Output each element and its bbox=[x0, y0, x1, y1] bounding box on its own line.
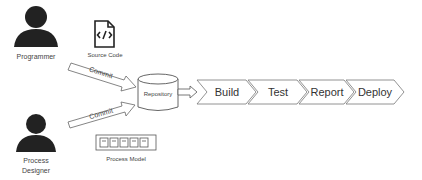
stage-deploy-label: Deploy bbox=[354, 86, 396, 98]
code-file-icon bbox=[95, 21, 114, 47]
programmer-person-icon bbox=[14, 6, 58, 47]
process-designer-person-icon bbox=[16, 114, 56, 152]
repository-to-build-arrow bbox=[178, 86, 197, 98]
stage-test-label: Test bbox=[258, 86, 298, 98]
stage-report-label: Report bbox=[307, 86, 347, 98]
source-code-label: Source Code bbox=[84, 52, 126, 58]
process-model-icon bbox=[96, 135, 156, 150]
process-designer-label-line2: Designer bbox=[14, 167, 58, 174]
process-model-label: Process Model bbox=[100, 156, 152, 162]
process-designer-label-line1: Process bbox=[14, 157, 58, 164]
commit-arrow-top bbox=[68, 63, 136, 91]
stage-build-label: Build bbox=[207, 86, 247, 98]
programmer-label: Programmer bbox=[12, 53, 60, 60]
repository-label: Repository bbox=[138, 91, 178, 97]
